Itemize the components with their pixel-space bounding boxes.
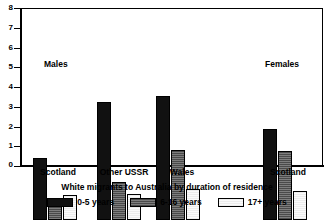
y-tick-label-3: 3 <box>0 103 13 111</box>
y-tick-6 <box>14 48 20 49</box>
x-axis-caption: White migrants to Australia by duration … <box>0 182 334 192</box>
legend-label-0-5: 0-5 years <box>77 198 114 207</box>
legend-item-0-5: 0-5 years <box>47 198 114 207</box>
y-tick-label-4: 4 <box>0 83 13 91</box>
y-tick-label-6: 6 <box>0 44 13 52</box>
x-tick-label-scotland-females: Scotland <box>253 168 323 177</box>
x-tick-label-scotland-males: Scotland <box>23 168 93 177</box>
y-tick-8 <box>14 8 20 9</box>
y-tick-label-0: 0 <box>0 161 13 169</box>
y-tick-1 <box>14 146 20 147</box>
legend: 0-5 years 6-16 years 17+ years <box>0 198 334 207</box>
y-tick-7 <box>14 28 20 29</box>
y-tick-label-1: 1 <box>0 142 13 150</box>
legend-swatch-0-5 <box>47 198 73 207</box>
y-tick-5 <box>14 67 20 68</box>
y-tick-4 <box>14 87 20 88</box>
y-tick-label-7: 7 <box>0 24 13 32</box>
y-tick-0 <box>14 166 20 167</box>
x-tick-label-wales: Wales <box>152 168 212 177</box>
y-tick-label-5: 5 <box>0 63 13 71</box>
bar-chart: 8 7 6 5 4 3 2 1 0 Scotland <box>0 0 334 220</box>
legend-label-17plus: 17+ years <box>248 198 287 207</box>
legend-label-6-16: 6-16 years <box>160 198 202 207</box>
y-tick-2 <box>14 127 20 128</box>
legend-item-6-16: 6-16 years <box>130 198 202 207</box>
y-tick-label-2: 2 <box>0 123 13 131</box>
annotation-males: Males <box>44 60 68 69</box>
y-axis-line <box>20 8 22 167</box>
bar-group-scotland-males <box>33 62 83 220</box>
y-tick-label-8: 8 <box>0 4 13 12</box>
legend-swatch-6-16 <box>130 198 156 207</box>
legend-item-17plus: 17+ years <box>218 198 287 207</box>
y-tick-3 <box>14 107 20 108</box>
annotation-females: Females <box>265 60 299 69</box>
legend-swatch-17plus <box>218 198 244 207</box>
